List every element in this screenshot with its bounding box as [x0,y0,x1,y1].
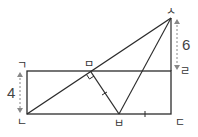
geometry-diagram: 4 6 ㄱ ㄴ ㄷ ㄹ ㅁ ㅂ ㅅ [0,0,198,137]
label-b: ㅂ [114,117,124,130]
dimension-right: 6 [174,19,190,70]
rectangle-gndr [27,71,171,114]
label-g: ㄱ [17,59,27,72]
label-s: ㅅ [166,5,176,18]
label-d: ㄷ [175,116,185,129]
label-n: ㄴ [17,116,27,129]
dim-label-6: 6 [182,36,190,53]
dim-label-4: 4 [7,84,15,101]
dimension-left: 4 [7,72,23,113]
label-m: ㅁ [84,58,94,71]
segment-n-s [27,18,171,114]
label-r: ㄹ [180,65,190,78]
segment-b-s [119,18,171,114]
